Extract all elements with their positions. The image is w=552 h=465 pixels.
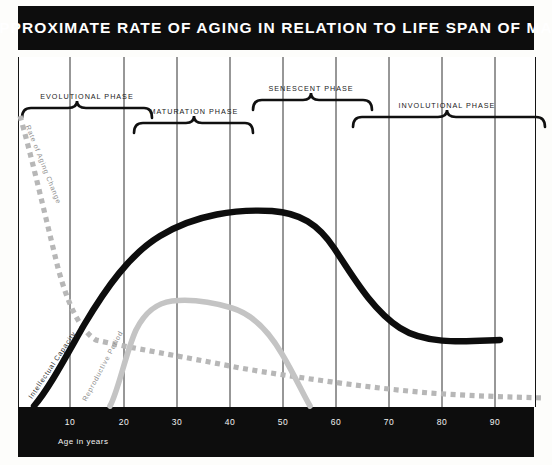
phase-label-senescent: SENESCENT PHASE <box>268 84 353 93</box>
x-tick-20: 20 <box>119 417 129 427</box>
x-axis-title: Age in years <box>58 437 108 446</box>
x-tick-90: 90 <box>490 417 500 427</box>
phase-label-involutional: INVOLUTIONAL PHASE <box>399 101 496 110</box>
x-tick-50: 50 <box>278 417 288 427</box>
x-axis-bar: 10 20 30 40 50 60 70 80 90 Age in years <box>18 407 534 457</box>
x-tick-10: 10 <box>65 417 75 427</box>
x-tick-60: 60 <box>331 417 341 427</box>
phase-label-evolutional: EVOLUTIONAL PHASE <box>40 92 133 101</box>
chart-title-bar: APPROXIMATE RATE OF AGING IN RELATION TO… <box>18 6 534 50</box>
x-tick-30: 30 <box>172 417 182 427</box>
x-tick-70: 70 <box>384 417 394 427</box>
chart-page: APPROXIMATE RATE OF AGING IN RELATION TO… <box>0 0 552 465</box>
phase-label-maturation: MATURATION PHASE <box>150 107 239 116</box>
x-tick-40: 40 <box>225 417 235 427</box>
page-title: APPROXIMATE RATE OF AGING IN RELATION TO… <box>0 19 552 37</box>
x-tick-80: 80 <box>437 417 447 427</box>
